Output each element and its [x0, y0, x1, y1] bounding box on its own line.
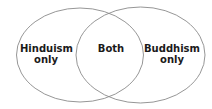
both-label: Both	[92, 43, 130, 54]
buddhism-only-label: Buddhism only	[144, 43, 200, 65]
hinduism-only-label: Hinduism only	[20, 43, 72, 65]
